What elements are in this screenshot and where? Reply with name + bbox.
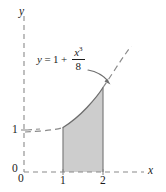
y-tick-label-1: 1 (12, 124, 18, 136)
equation-fraction: x3 8 (72, 47, 85, 72)
equation-constant: 1 (53, 54, 59, 65)
origin-label-y: 0 (12, 163, 18, 175)
x-tick-label-2: 2 (100, 175, 106, 187)
graph-canvas (0, 0, 166, 192)
x-tick-label-1: 1 (60, 175, 66, 187)
x-axis-label: x (148, 165, 153, 177)
shaded-area (63, 88, 103, 173)
equation-plus: + (61, 54, 67, 65)
y-axis-label: y (19, 6, 24, 18)
graph-figure: y x 0 0 1 1 2 y = 1 + x3 8 (0, 0, 166, 192)
equation-annotation: y = 1 + x3 8 (37, 47, 85, 72)
equation-equals: = (44, 54, 50, 65)
equation-numerator: x3 (72, 47, 84, 59)
annotation-leader-line (88, 70, 108, 81)
equation-lhs: y (37, 54, 42, 65)
y-one-guide (27, 129, 40, 130)
equation-numerator-exponent: 3 (79, 45, 83, 53)
equation-denominator: 8 (74, 60, 84, 72)
origin-label-x: 0 (18, 173, 24, 185)
